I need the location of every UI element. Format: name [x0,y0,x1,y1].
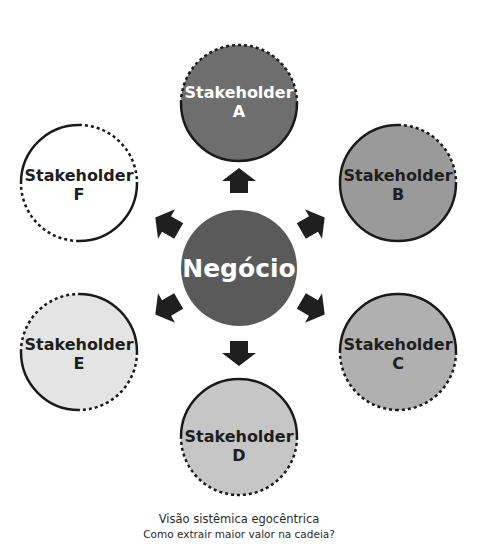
stakeholder-a-label: Stakeholder [184,83,293,102]
stakeholder-b-label: Stakeholder [343,166,452,185]
caption-title: Visão sistêmica egocêntrica [0,512,478,526]
stakeholder-f-node: Stakeholder F [21,125,137,241]
stakeholder-a-letter: A [233,102,246,121]
stakeholder-f-label: Stakeholder [24,166,133,185]
stakeholder-e-letter: E [74,354,85,373]
arrow-up-icon [222,168,256,193]
stakeholder-c-node: Stakeholder C [340,294,456,410]
arrow-down-left-icon [147,286,187,329]
center-node: Negócio [181,210,297,326]
arrow-down-right-icon [293,286,333,329]
stakeholder-f-letter: F [74,185,85,204]
arrow-up-left-icon [147,203,187,246]
stakeholder-e-label: Stakeholder [24,335,133,354]
stakeholder-c-letter: C [392,354,404,373]
stakeholder-d-letter: D [232,446,245,465]
stakeholder-e-node: Stakeholder E [21,294,137,410]
stakeholder-b-letter: B [392,185,404,204]
center-label: Negócio [182,254,296,283]
egocentric-systems-diagram: Negócio Stakeholder A Stakeholder B Stak… [0,0,478,550]
caption-subtitle: Como extrair maior valor na cadeia? [0,528,478,540]
stakeholder-b-node: Stakeholder B [340,125,456,241]
stakeholder-d-node: Stakeholder D [181,379,297,495]
stakeholder-a-node: Stakeholder A [181,45,297,161]
arrow-up-right-icon [293,203,333,246]
stakeholder-c-label: Stakeholder [343,335,452,354]
stakeholder-d-label: Stakeholder [184,427,293,446]
arrow-down-icon [222,341,256,366]
